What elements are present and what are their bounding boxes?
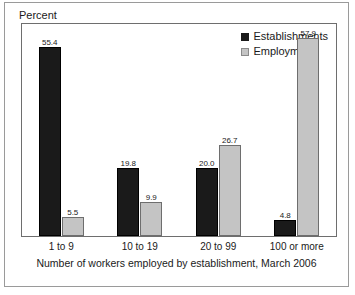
bar: 9.9 xyxy=(140,202,162,236)
bar-value-label: 26.7 xyxy=(222,136,238,145)
x-axis-tick-label: 10 to 19 xyxy=(122,241,158,252)
x-axis-tick-label: 20 to 99 xyxy=(200,241,236,252)
bar-value-label: 9.9 xyxy=(146,193,157,202)
bar: 55.4 xyxy=(39,47,61,236)
x-axis-tick-label: 100 or more xyxy=(270,241,324,252)
bar: 26.7 xyxy=(219,145,241,236)
figure-frame: Percent Establishments Employment 55.45.… xyxy=(4,2,349,287)
bar-value-label: 55.4 xyxy=(42,38,58,47)
bar: 19.8 xyxy=(117,168,139,236)
x-axis-tick-label: 1 to 9 xyxy=(49,241,74,252)
bar-value-label: 5.5 xyxy=(67,208,78,217)
bar-value-label: 20.0 xyxy=(199,159,215,168)
bar: 4.8 xyxy=(274,220,296,236)
bar: 57.9 xyxy=(297,38,319,236)
bar-value-label: 57.9 xyxy=(300,29,316,38)
bar-value-label: 19.8 xyxy=(120,159,136,168)
bar: 20.0 xyxy=(196,168,218,236)
x-axis-label: Number of workers employed by establishm… xyxy=(5,257,348,269)
bar: 5.5 xyxy=(62,217,84,236)
plot-area: Establishments Employment 55.45.519.89.9… xyxy=(21,23,337,237)
y-axis-label: Percent xyxy=(19,9,57,21)
bars-container: 55.45.519.89.920.026.74.857.9 xyxy=(22,24,336,236)
bar-value-label: 4.8 xyxy=(280,211,291,220)
